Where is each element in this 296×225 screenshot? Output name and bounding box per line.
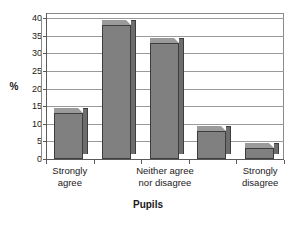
bar-front-face bbox=[197, 131, 226, 159]
bar-side-face bbox=[274, 143, 279, 154]
y-tick-label-40: 40 bbox=[24, 14, 42, 23]
bar bbox=[197, 126, 226, 159]
y-tick-label-15: 15 bbox=[24, 102, 42, 111]
bar-chart-figure: % 0510152025303540 StronglyagreeNeither … bbox=[0, 0, 296, 225]
y-tick-label-20: 20 bbox=[24, 85, 42, 94]
x-axis-title: Pupils bbox=[0, 199, 296, 210]
bar-series bbox=[47, 13, 284, 159]
bar-side-face bbox=[226, 126, 231, 154]
y-axis-title: % bbox=[6, 82, 22, 92]
x-category-label-line2: nor disagree bbox=[135, 177, 195, 189]
bar bbox=[150, 38, 179, 159]
bar bbox=[245, 143, 274, 159]
x-category-label-line2: disagree bbox=[230, 177, 290, 189]
bar bbox=[102, 20, 131, 159]
x-tick-mark-end bbox=[284, 160, 285, 164]
bar-top-face bbox=[150, 38, 179, 43]
y-tick-label-30: 30 bbox=[24, 49, 42, 58]
x-tick-mark-4 bbox=[236, 160, 237, 164]
bar-front-face bbox=[150, 43, 179, 159]
bar-top-face bbox=[54, 108, 83, 113]
y-axis-tick-labels: 0510152025303540 bbox=[24, 10, 42, 160]
bar-front-face bbox=[102, 25, 131, 159]
bar-top-face bbox=[102, 20, 131, 25]
y-tick-label-25: 25 bbox=[24, 67, 42, 76]
bar-side-face bbox=[179, 38, 184, 154]
x-tick-mark-1 bbox=[94, 160, 95, 164]
x-tick-mark-3 bbox=[189, 160, 190, 164]
y-tick-label-10: 10 bbox=[24, 120, 42, 129]
x-category-label: Stronglyagree bbox=[40, 165, 100, 189]
bar bbox=[54, 108, 83, 159]
x-tick-mark-2 bbox=[141, 160, 142, 164]
bar-front-face bbox=[245, 148, 274, 159]
x-tick-mark-0 bbox=[46, 160, 47, 164]
x-category-label: Neither agreenor disagree bbox=[135, 165, 195, 189]
bar-side-face bbox=[131, 20, 136, 154]
x-category-label-line1: Strongly bbox=[52, 165, 87, 176]
bar-top-face bbox=[197, 126, 226, 131]
x-category-label-line2: agree bbox=[40, 177, 100, 189]
plot-area bbox=[46, 13, 284, 160]
x-axis-category-labels: StronglyagreeNeither agreenor disagreeSt… bbox=[40, 165, 292, 197]
x-category-label-line1: Neither agree bbox=[136, 165, 194, 176]
y-tick-label-35: 35 bbox=[24, 32, 42, 41]
y-tick-label-0: 0 bbox=[24, 155, 42, 164]
x-category-label: Stronglydisagree bbox=[230, 165, 290, 189]
bar-front-face bbox=[54, 113, 83, 159]
y-tick-label-5: 5 bbox=[24, 137, 42, 146]
x-category-label-line1: Strongly bbox=[243, 165, 278, 176]
bar-top-face bbox=[245, 143, 274, 148]
bar-side-face bbox=[83, 108, 88, 154]
